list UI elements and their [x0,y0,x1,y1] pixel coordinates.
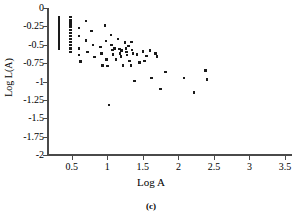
data-point [115,58,118,61]
x-axis-tick [143,156,144,160]
data-point [106,65,109,68]
x-axis-tick-label: 1 [92,162,122,172]
y-axis-tick [43,137,47,138]
data-point [128,60,131,63]
y-axis-tick [43,82,47,83]
y-axis-tick [43,45,47,46]
data-point [193,91,196,94]
x-axis-tick-label: 3.5 [270,162,300,172]
y-axis-tick [43,8,47,9]
data-point [99,46,102,49]
plot-area: 0.511.522.533.5 [47,8,292,155]
data-point [110,44,113,47]
data-point [105,40,108,43]
y-axis-tick-label: -0.75 [23,58,44,68]
data-point [117,38,120,41]
data-point [164,71,167,74]
y-axis-tick-label: -1.25 [23,95,44,105]
data-point [93,56,96,59]
data-point [131,49,134,52]
scatter-plot-figure: Log L(A) 0-0.25-0.5-0.75-1-1.25-1.5-1.75… [0,0,302,219]
data-point [101,64,104,67]
data-point [92,44,95,47]
y-axis-tick-label: -1.5 [28,113,44,123]
data-point [100,52,103,55]
y-axis-tick [43,100,47,101]
data-point [69,44,72,47]
data-point [110,34,113,37]
data-point [69,47,72,50]
data-point [124,41,127,44]
data-point [104,24,107,27]
data-point [86,51,89,54]
data-point [120,55,123,58]
data-point [156,55,159,58]
data-point [127,45,130,48]
x-axis-tick-label: 0.5 [57,162,87,172]
y-axis-tick [43,155,47,156]
data-point [85,39,88,42]
data-point [149,49,152,52]
y-axis-line [47,8,49,155]
data-point [136,53,139,56]
y-axis-tick [43,63,47,64]
data-point [108,104,111,107]
x-axis-tick-label: 2.5 [199,162,229,172]
data-point [138,61,141,64]
y-axis-tick [43,118,47,119]
data-point [145,55,148,58]
y-axis-tick-label: -1.75 [23,132,44,142]
data-point [78,47,81,50]
data-point [125,47,128,50]
x-axis-line [47,154,292,156]
data-point [143,60,146,63]
x-axis-tick-label: 3 [234,162,264,172]
y-axis-tick-label: -0.5 [28,40,44,50]
data-point [133,80,136,83]
data-point [183,77,186,80]
x-axis-tick [214,156,215,160]
data-point [120,49,123,52]
data-point [150,77,153,80]
y-axis-tick [43,26,47,27]
data-point [58,47,61,50]
x-axis-tick [285,156,286,160]
data-point [78,35,81,38]
data-point [113,47,116,50]
x-axis-tick-label: 2 [163,162,193,172]
data-point [112,53,115,56]
data-point [159,88,162,91]
data-point [132,52,135,55]
data-point [142,50,145,53]
data-point [130,64,133,67]
y-axis-tick-labels: 0-0.25-0.5-0.75-1-1.25-1.5-1.75-2 [0,8,44,155]
data-point [204,69,207,72]
data-point [78,27,81,30]
data-point [122,64,125,67]
data-point [90,30,93,33]
figure-caption: (c) [0,201,302,211]
data-point [78,54,81,57]
data-point [130,41,133,44]
x-axis-tick-label: 1.5 [128,162,158,172]
data-point [206,78,209,81]
data-point [79,60,82,63]
data-point [85,20,88,23]
data-point [126,54,129,57]
x-axis-tick [249,156,250,160]
x-axis-tick [178,156,179,160]
x-axis-title: Log A [0,176,302,188]
x-axis-tick [107,156,108,160]
data-point [105,58,108,61]
x-axis-tick [72,156,73,160]
y-axis-tick-label: -0.25 [23,21,44,31]
data-point [69,51,72,54]
